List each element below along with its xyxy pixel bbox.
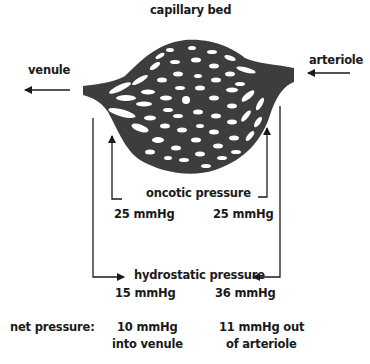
hydrostatic-venule-value: 15 mmHg — [115, 286, 175, 300]
net-arteriole-line1: 11 mmHg out — [219, 320, 304, 334]
net-venule-line2: into venule — [112, 337, 183, 351]
net-venule-line1: 10 mmHg — [117, 320, 177, 334]
net-arteriole-line2: of arteriole — [226, 337, 297, 351]
oncotic-arrow-venule — [112, 136, 122, 199]
oncotic-arteriole-value: 25 mmHg — [213, 207, 273, 221]
oncotic-arrow-arteriole — [258, 128, 267, 197]
capillary-bed-shape — [83, 40, 294, 174]
arteriole-label: arteriole — [309, 53, 363, 67]
hydrostatic-pressure-label: hydrostatic pressure — [134, 268, 265, 282]
oncotic-pressure-label: oncotic pressure — [146, 186, 251, 200]
diagram-title: capillary bed — [150, 3, 231, 17]
venule-label: venule — [28, 63, 70, 77]
hydrostatic-arteriole-value: 36 mmHg — [215, 286, 275, 300]
oncotic-venule-value: 25 mmHg — [114, 207, 174, 221]
net-pressure-label: net pressure: — [10, 320, 95, 334]
hydrostatic-arrow-venule — [93, 118, 124, 277]
